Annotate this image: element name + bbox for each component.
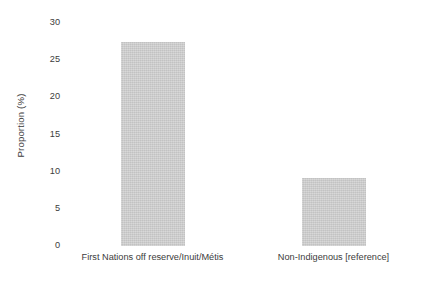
y-axis-tick-5: 5 [30, 204, 60, 213]
y-axis-tick-10: 10 [30, 167, 60, 176]
y-axis-title: Proportion (%) [10, 0, 32, 250]
bar-slot [243, 23, 424, 246]
bar [121, 42, 185, 246]
plot-area [62, 23, 424, 246]
y-axis-tick-20: 20 [30, 93, 60, 102]
bar-slot [62, 23, 243, 246]
y-axis-title-label: Proportion (%) [16, 93, 27, 157]
bar [302, 178, 366, 246]
y-axis-tick-25: 25 [30, 56, 60, 65]
y-axis-tick-15: 15 [30, 130, 60, 139]
y-axis-tick-0: 0 [30, 241, 60, 250]
x-axis-tick-label: First Nations off reserve/Inuit/Métis [82, 252, 224, 263]
y-axis-tick-labels: 051015202530 [30, 0, 60, 282]
y-axis-tick-30: 30 [30, 18, 60, 27]
x-axis-tick-labels: First Nations off reserve/Inuit/MétisNon… [62, 252, 424, 274]
x-axis-tick-label: Non-Indigenous [reference] [278, 252, 389, 263]
bar-chart-figure: Proportion (%) 051015202530 First Nation… [0, 0, 430, 282]
